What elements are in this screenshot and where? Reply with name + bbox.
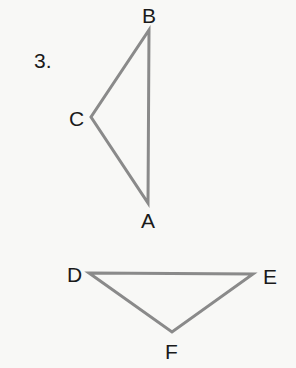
vertex-label-c: C [69,108,84,129]
triangles-diagram [0,0,296,368]
vertex-label-d: D [67,264,82,285]
vertex-label-e: E [263,266,277,287]
vertex-label-f: F [165,341,178,362]
vertex-label-b: B [142,5,156,26]
triangle-abc [91,30,149,203]
vertex-label-a: A [141,210,155,231]
triangle-def [89,273,253,332]
